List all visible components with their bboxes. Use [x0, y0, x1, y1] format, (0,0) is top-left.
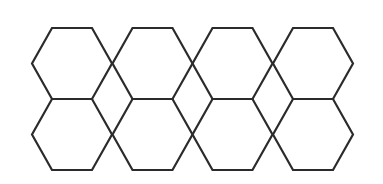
hexagon-r0-c2 [193, 28, 273, 99]
hexagon-r1-c2 [193, 99, 273, 170]
hexagon-diagram [0, 0, 383, 184]
hexagon-r1-c0 [32, 99, 112, 170]
hexagon-grid [0, 0, 383, 184]
hexagon-r0-c1 [113, 28, 193, 99]
hexagon-r1-c1 [113, 99, 193, 170]
hexagon-r0-c0 [32, 28, 112, 99]
hexagon-r0-c3 [273, 28, 353, 99]
hexagon-r1-c3 [273, 99, 353, 170]
